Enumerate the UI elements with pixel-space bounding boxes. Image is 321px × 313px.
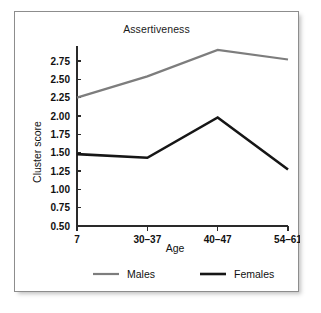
y-tick-label: 1.00 bbox=[51, 184, 71, 195]
y-tick-label: 0.75 bbox=[51, 202, 71, 213]
figure-root: Assertiveness 0.500.751.001.251.501.752.… bbox=[0, 0, 321, 313]
y-tick-label: 2.25 bbox=[51, 92, 71, 103]
y-tick-label: 2.50 bbox=[51, 74, 71, 85]
y-tick-label: 2.75 bbox=[51, 56, 71, 67]
series-line-females bbox=[77, 117, 288, 169]
chart-panel: Assertiveness 0.500.751.001.251.501.752.… bbox=[14, 11, 299, 292]
series-line-males bbox=[77, 50, 288, 98]
y-axis-title: Cluster score bbox=[31, 121, 43, 183]
y-tick-label: 2.00 bbox=[51, 111, 71, 122]
y-tick-label: 1.25 bbox=[51, 166, 71, 177]
x-axis-title: Age bbox=[166, 242, 185, 254]
x-tick-label: 7 bbox=[74, 234, 80, 245]
axes-group bbox=[77, 46, 288, 226]
legend-label-females: Females bbox=[234, 268, 274, 280]
series-group bbox=[77, 50, 288, 170]
legend-label-males: Males bbox=[127, 268, 155, 280]
x-axis-ticks: 730–3740–4754–61 bbox=[74, 226, 300, 245]
x-tick-label: 30–37 bbox=[133, 234, 161, 245]
y-tick-label: 0.50 bbox=[51, 221, 71, 232]
x-tick-label: 40–47 bbox=[204, 234, 232, 245]
chart-legend: MalesFemales bbox=[93, 268, 274, 280]
y-tick-label: 1.50 bbox=[51, 147, 71, 158]
x-tick-label: 54–61 bbox=[274, 234, 300, 245]
y-tick-label: 1.75 bbox=[51, 129, 71, 140]
line-chart: 0.500.751.001.251.501.752.002.252.502.75… bbox=[15, 12, 300, 293]
